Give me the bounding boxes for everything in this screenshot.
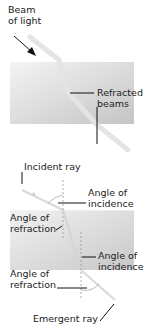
label-line: Angle of [88, 187, 134, 198]
angle-of-refraction-label-1: Angle of refraction [10, 212, 56, 234]
incident-ray [22, 190, 63, 210]
label-line: refraction [10, 279, 56, 290]
label-line: Angle of [10, 268, 56, 279]
refracted-beams-label: Refracted beams [97, 87, 143, 109]
label-line: Angle of [98, 250, 144, 261]
emergent-ray-label: Emergent ray [33, 313, 98, 324]
incident-ray-label: Incident ray [24, 161, 81, 172]
beam-of-light-label: Beam of light [8, 4, 41, 26]
angle-of-refraction-label-2: Angle of refraction [10, 268, 56, 290]
angle-of-incidence-label-2: Angle of incidence [98, 250, 144, 272]
label-line: of light [8, 15, 41, 26]
label-line: incidence [88, 198, 134, 209]
label-line: incidence [98, 261, 144, 272]
label-line: Refracted [97, 87, 143, 98]
label-line: beams [97, 98, 143, 109]
angle-of-incidence-label-1: Angle of incidence [88, 187, 134, 209]
label-line: Beam [8, 4, 41, 15]
label-line: Angle of [10, 212, 56, 223]
label-line: refraction [10, 223, 56, 234]
